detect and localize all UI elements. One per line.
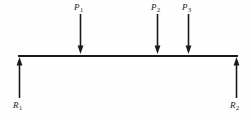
label-symbol: P <box>182 2 188 12</box>
label-subscript: 2 <box>157 6 160 13</box>
label-p3: P3 <box>182 3 191 12</box>
arrow-p2-icon <box>152 14 163 54</box>
label-symbol: P <box>74 2 80 12</box>
free-body-diagram: P1P2P3 R1R2 <box>0 0 251 120</box>
arrow-p1-icon <box>75 14 86 54</box>
beam-line <box>18 55 238 57</box>
label-subscript: 3 <box>188 6 191 13</box>
label-p1: P1 <box>74 3 83 12</box>
label-r2: R2 <box>230 101 239 110</box>
arrow-r1-icon <box>14 57 25 98</box>
label-r1: R1 <box>13 101 22 110</box>
label-p2: P2 <box>151 3 160 12</box>
label-subscript: 2 <box>236 104 239 111</box>
arrow-r2-icon <box>231 57 242 98</box>
label-subscript: 1 <box>80 6 83 13</box>
label-symbol: R <box>230 100 236 110</box>
label-symbol: P <box>151 2 157 12</box>
arrow-p3-icon <box>183 14 194 54</box>
label-symbol: R <box>13 100 19 110</box>
label-subscript: 1 <box>19 104 22 111</box>
